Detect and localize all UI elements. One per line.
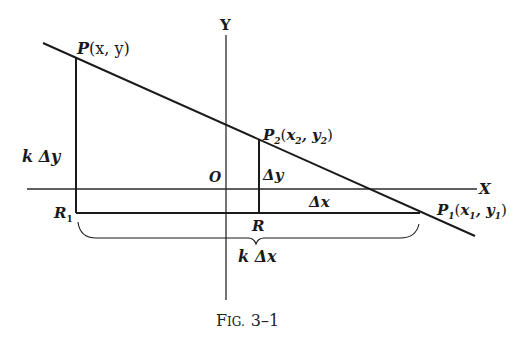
svg-text:P1(x1, y1): P1(x1, y1): [436, 201, 507, 221]
k-dx-label: k Δx: [238, 247, 277, 266]
point-P-label: P(x, y): [76, 39, 130, 58]
point-R-label: R: [251, 217, 264, 235]
point-P2-label: P2(x2, y2): [262, 126, 333, 146]
figure-caption: FIG.3–1: [216, 311, 279, 330]
svg-text:P2(x2, y2): P2(x2, y2): [262, 126, 333, 146]
dx-label: Δx: [308, 193, 331, 211]
k-dy-label: k Δy: [22, 147, 62, 166]
svg-text:FIG.3–1: FIG.3–1: [216, 311, 279, 330]
point-R1-label: R1: [53, 204, 73, 224]
point-P1-label: P1(x1, y1): [436, 201, 507, 221]
y-axis-label: Y: [219, 16, 231, 34]
dy-label: Δy: [262, 166, 285, 184]
svg-text:P(x, y): P(x, y): [76, 39, 130, 58]
origin-label: O: [209, 169, 222, 185]
similar-triangles-diagram: Y X O P(x, y) P2(x2, y2) P1(x1, y1) R R1…: [0, 0, 523, 343]
svg-text:R1: R1: [53, 204, 73, 224]
x-axis-label: X: [478, 180, 492, 198]
k-dx-brace: [78, 222, 419, 244]
